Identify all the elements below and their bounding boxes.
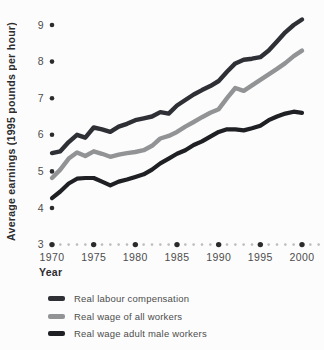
- x-tick-label: 1975: [81, 251, 106, 263]
- y-tick-label: 9: [38, 19, 44, 31]
- x-minor-dot: [192, 243, 195, 246]
- y-tick-dot: [50, 23, 55, 28]
- y-tick-label: 3: [38, 238, 44, 250]
- x-tick-dot: [299, 242, 304, 247]
- x-tick-label: 1985: [165, 251, 190, 263]
- x-minor-dot: [276, 243, 279, 246]
- x-tick-dot: [216, 242, 221, 247]
- legend-item-real-labour-compensation: Real labour compensation: [48, 290, 207, 308]
- plot-area: 34567891970197519801985199019952000: [0, 0, 324, 268]
- x-minor-dot: [126, 243, 129, 246]
- y-tick-label: 7: [38, 92, 44, 104]
- y-tick-dot: [50, 59, 55, 64]
- x-minor-dot: [317, 243, 320, 246]
- earnings-line-chart: Average earnings (1995 pounds per hour) …: [0, 0, 324, 350]
- legend-swatch-real-wage-all-workers: [48, 314, 65, 319]
- x-axis-title: Year: [39, 266, 62, 278]
- x-tick-dot: [49, 242, 54, 247]
- y-tick-dot: [50, 96, 55, 101]
- x-minor-dot: [142, 243, 145, 246]
- x-minor-dot: [151, 243, 154, 246]
- x-minor-dot: [284, 243, 287, 246]
- x-tick-dot: [133, 242, 138, 247]
- x-minor-dot: [67, 243, 70, 246]
- x-minor-dot: [234, 243, 237, 246]
- x-tick-label: 2000: [290, 251, 315, 263]
- x-tick-label: 1970: [40, 251, 65, 263]
- y-tick-dot: [50, 169, 55, 174]
- x-tick-dot: [258, 242, 263, 247]
- x-tick-dot: [91, 242, 96, 247]
- x-minor-dot: [201, 243, 204, 246]
- x-minor-dot: [226, 243, 229, 246]
- x-minor-dot: [117, 243, 120, 246]
- x-tick-label: 1995: [248, 251, 273, 263]
- y-tick-label: 8: [38, 55, 44, 67]
- x-minor-dot: [251, 243, 254, 246]
- legend-item-real-wage-adult-male-workers: Real wage adult male workers: [48, 325, 207, 343]
- x-tick-label: 1990: [206, 251, 231, 263]
- y-tick-label: 5: [38, 165, 44, 177]
- x-minor-dot: [76, 243, 79, 246]
- legend-label: Real wage of all workers: [74, 311, 182, 322]
- legend-label: Real labour compensation: [74, 293, 189, 304]
- legend-item-real-wage-all-workers: Real wage of all workers: [48, 308, 207, 326]
- y-tick-label: 4: [38, 202, 44, 214]
- series-line-1: [52, 51, 302, 178]
- x-minor-dot: [292, 243, 295, 246]
- x-minor-dot: [101, 243, 104, 246]
- legend-swatch-real-labour-compensation: [48, 296, 65, 301]
- x-minor-dot: [309, 243, 312, 246]
- x-minor-dot: [167, 243, 170, 246]
- x-minor-dot: [209, 243, 212, 246]
- legend: Real labour compensation Real wage of al…: [48, 290, 207, 343]
- x-minor-dot: [184, 243, 187, 246]
- legend-swatch-real-wage-adult-male-workers: [48, 331, 65, 336]
- x-minor-dot: [84, 243, 87, 246]
- x-minor-dot: [109, 243, 112, 246]
- legend-label: Real wage adult male workers: [74, 328, 207, 339]
- y-tick-dot: [50, 133, 55, 138]
- x-minor-dot: [159, 243, 162, 246]
- x-tick-dot: [174, 242, 179, 247]
- x-tick-label: 1980: [123, 251, 148, 263]
- x-minor-dot: [242, 243, 245, 246]
- x-minor-dot: [267, 243, 270, 246]
- x-minor-dot: [59, 243, 62, 246]
- y-tick-dot: [50, 206, 55, 211]
- y-tick-label: 6: [38, 128, 44, 140]
